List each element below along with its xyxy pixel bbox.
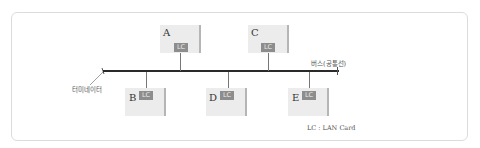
lan-card-a: LC	[174, 43, 188, 52]
legend-lan-card: LC : LAN Card	[307, 124, 356, 132]
node-b-label: B	[129, 92, 136, 103]
bus-label: 버스(공통선)	[311, 58, 346, 68]
node-a-label: A	[163, 27, 170, 38]
stem-c	[268, 51, 269, 71]
lan-card-e: LC	[302, 91, 316, 100]
node-e-label: E	[292, 92, 299, 103]
node-c-label: C	[251, 27, 259, 38]
lan-card-d: LC	[220, 91, 234, 100]
lan-card-b: LC	[139, 91, 153, 100]
bus-line	[103, 70, 339, 72]
lan-card-c: LC	[261, 43, 275, 52]
stem-a	[180, 51, 181, 71]
bus-terminator-right	[337, 67, 338, 75]
node-d-label: D	[209, 92, 217, 103]
terminator-label: 터미네이터	[72, 84, 102, 94]
terminator-pointer	[0, 0, 480, 148]
